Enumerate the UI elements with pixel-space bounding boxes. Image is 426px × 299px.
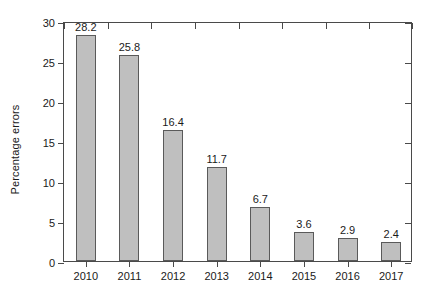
bar-chart-figure: Percentage errors 05101520253028.2201025… (0, 0, 426, 299)
y-tick-label: 15 (43, 137, 55, 149)
y-tick-right (405, 23, 411, 24)
bar-value-label: 2.9 (340, 224, 355, 236)
plot-frame: 05101520253028.2201025.8201116.4201211.7… (63, 22, 412, 262)
y-tick-left (58, 143, 64, 144)
x-tick-top (151, 23, 152, 29)
y-tick-right (405, 143, 411, 144)
x-tick-label: 2014 (248, 270, 272, 282)
y-tick-left (58, 223, 64, 224)
bar (250, 207, 270, 261)
bar (294, 232, 314, 261)
y-tick-right (405, 223, 411, 224)
x-tick-label: 2010 (74, 270, 98, 282)
x-tick-label: 2017 (379, 270, 403, 282)
y-tick-left (58, 263, 64, 264)
y-tick-label: 30 (43, 17, 55, 29)
x-tick-top (64, 23, 65, 29)
bar-value-label: 16.4 (162, 116, 183, 128)
x-tick-top (282, 23, 283, 29)
y-tick-right (405, 263, 411, 264)
x-tick-top (239, 23, 240, 29)
x-tick-bottom (86, 261, 87, 267)
x-tick-top (369, 23, 370, 29)
plot-area: 05101520253028.2201025.8201116.4201211.7… (64, 23, 411, 261)
bar (338, 238, 358, 261)
bar (207, 167, 227, 261)
x-tick-bottom (217, 261, 218, 267)
bar (76, 35, 96, 261)
y-tick-label: 25 (43, 57, 55, 69)
x-tick-top (195, 23, 196, 29)
bar-value-label: 3.6 (296, 218, 311, 230)
bar (119, 55, 139, 261)
x-tick-bottom (348, 261, 349, 267)
x-tick-top (108, 23, 109, 29)
x-tick-bottom (391, 261, 392, 267)
y-tick-right (405, 183, 411, 184)
bar-value-label: 2.4 (384, 228, 399, 240)
bar-value-label: 11.7 (206, 153, 227, 165)
y-tick-label: 0 (49, 257, 55, 269)
x-tick-bottom (129, 261, 130, 267)
bar (163, 130, 183, 261)
y-tick-right (405, 103, 411, 104)
x-tick-label: 2016 (335, 270, 359, 282)
y-tick-left (58, 183, 64, 184)
bar-value-label: 28.2 (75, 21, 96, 33)
y-tick-right (405, 63, 411, 64)
x-tick-label: 2012 (161, 270, 185, 282)
y-tick-label: 20 (43, 97, 55, 109)
x-tick-top (326, 23, 327, 29)
x-tick-label: 2013 (204, 270, 228, 282)
y-tick-left (58, 63, 64, 64)
bar-value-label: 6.7 (253, 193, 268, 205)
x-tick-label: 2011 (118, 270, 142, 282)
x-tick-label: 2015 (292, 270, 316, 282)
x-tick-bottom (173, 261, 174, 267)
bar (381, 242, 401, 261)
y-tick-label: 10 (43, 177, 55, 189)
x-tick-bottom (304, 261, 305, 267)
y-tick-label: 5 (49, 217, 55, 229)
x-tick-top (412, 23, 413, 29)
x-tick-bottom (260, 261, 261, 267)
y-axis-title: Percentage errors (0, 0, 30, 299)
bar-value-label: 25.8 (119, 41, 140, 53)
y-tick-left (58, 103, 64, 104)
